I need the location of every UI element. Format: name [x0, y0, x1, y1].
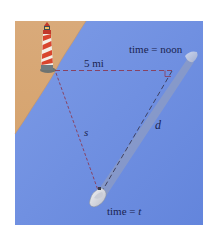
side-d-label: d [155, 119, 161, 131]
lighthouse-boat-diagram: time = noon 5 mi s d time = t [0, 0, 214, 235]
variable-t: t [138, 205, 141, 217]
distance-5mi-label: 5 mi [84, 58, 104, 69]
time-t-label: time = t [107, 206, 141, 217]
time-t-text: time = t [107, 205, 141, 217]
time-noon-label: time = noon [129, 44, 182, 55]
diagram-canvas [0, 0, 214, 235]
side-s-label: s [84, 127, 88, 138]
